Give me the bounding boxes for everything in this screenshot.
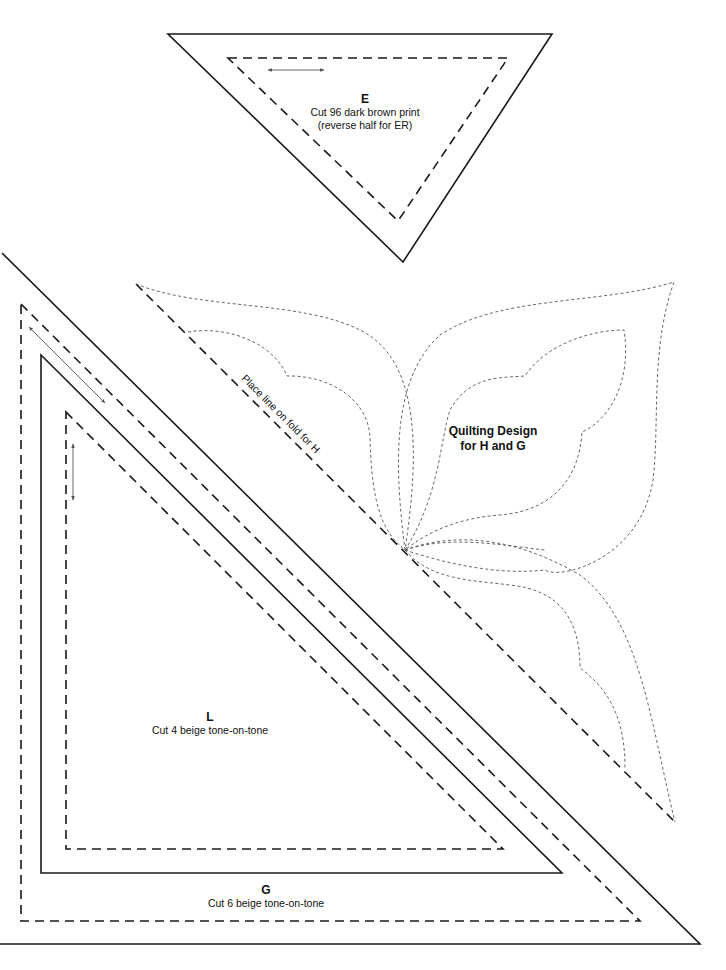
- quilting-design-title-line2: for H and G: [438, 439, 548, 454]
- template-l-seam-line: [66, 412, 503, 849]
- template-e-label: E Cut 96 dark brown print (reverse half …: [300, 92, 430, 132]
- template-e-cut-instruction: Cut 96 dark brown print: [300, 106, 430, 119]
- template-g-cut-line: [0, 253, 700, 944]
- template-g: [0, 253, 700, 944]
- template-g-cut-instruction: Cut 6 beige tone-on-tone: [176, 897, 356, 910]
- template-g-label: G Cut 6 beige tone-on-tone: [176, 883, 356, 910]
- quilting-design-title-line1: Quilting Design: [438, 424, 548, 439]
- template-e-reverse-note: (reverse half for ER): [300, 119, 430, 132]
- template-g-seam-line: [21, 304, 640, 921]
- template-e-letter: E: [300, 92, 430, 106]
- template-e-seam-line: [228, 58, 508, 221]
- template-e: [168, 34, 552, 262]
- template-l-label: L Cut 4 beige tone-on-tone: [120, 710, 300, 737]
- template-e-cut-line: [168, 34, 552, 262]
- template-g-letter: G: [176, 883, 356, 897]
- quilt-pattern-sheet: [0, 0, 726, 970]
- template-l-letter: L: [120, 710, 300, 724]
- template-l-cut-instruction: Cut 4 beige tone-on-tone: [120, 724, 300, 737]
- fold-line: [136, 284, 675, 822]
- quilting-design-title: Quilting Design for H and G: [438, 424, 548, 454]
